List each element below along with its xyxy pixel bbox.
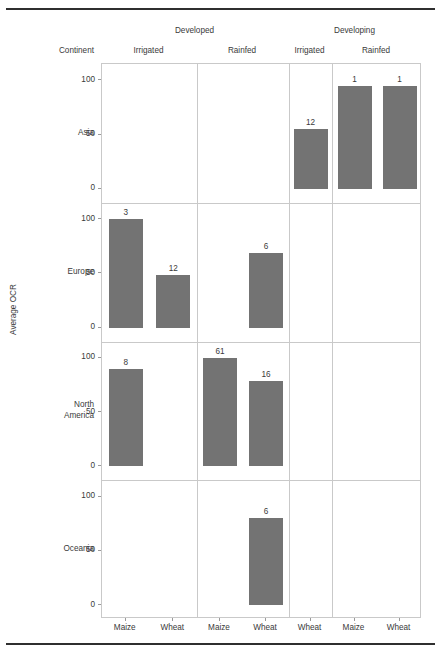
- facet-panel-r3-c3: [332, 480, 422, 619]
- bar-slot: [102, 64, 150, 203]
- x-tick-mark: [265, 618, 266, 621]
- x-tick-mark: [399, 618, 400, 621]
- bar-slot: [197, 480, 243, 619]
- bar-value-label: 8: [123, 358, 128, 368]
- continent-header: Continent: [22, 45, 94, 56]
- facet-panel-r3-c0: [102, 480, 197, 619]
- bar-value-label: 1: [352, 75, 357, 85]
- bar-value-label: 12: [306, 118, 315, 128]
- bar[interactable]: [294, 129, 328, 189]
- y-axis-title: Average OCR: [9, 270, 18, 350]
- bar-slot: [197, 64, 243, 203]
- bar-slot: [150, 480, 198, 619]
- bar-slot: [332, 342, 377, 481]
- bar-value-label: 12: [169, 264, 178, 274]
- bar-value-label: 16: [261, 370, 270, 380]
- bar[interactable]: [109, 369, 143, 467]
- x-tick-mark: [125, 618, 126, 621]
- facet-panel-r0-c0: [102, 64, 197, 203]
- bar-slot: [377, 342, 422, 481]
- bar-slot: 6: [243, 203, 289, 342]
- bar-slot: [289, 480, 332, 619]
- bar[interactable]: [338, 86, 372, 189]
- facet-panel-r2-c0: 8: [102, 342, 197, 481]
- facet-panel-r1-c3: [332, 203, 422, 342]
- bar-value-label: 6: [264, 242, 269, 252]
- x-tick-mark: [172, 618, 173, 621]
- bar-slot: [102, 480, 150, 619]
- x-tick-mark: [310, 618, 311, 621]
- x-tick-mark: [219, 618, 220, 621]
- facet-panel-r3-c1: 6: [197, 480, 289, 619]
- bar-value-label: 6: [264, 507, 269, 517]
- bottom-rule: [6, 643, 435, 645]
- bar-slot: [197, 203, 243, 342]
- bar-slot: [243, 64, 289, 203]
- bar-slot: [377, 480, 422, 619]
- bar-value-label: 61: [215, 347, 224, 357]
- column-sub-label-developed-irrigated: Irrigated: [101, 45, 196, 56]
- facet-panel-r1-c1: 6: [197, 203, 289, 342]
- top-rule: [6, 8, 435, 10]
- bar-slot: [150, 342, 198, 481]
- bar-slot: [150, 64, 198, 203]
- column-sub-label-developed-rainfed: Rainfed: [196, 45, 288, 56]
- facet-panel-r2-c3: [332, 342, 422, 481]
- bar[interactable]: [156, 275, 190, 327]
- bar-slot: 8: [102, 342, 150, 481]
- facet-panel-r3-c2: [289, 480, 332, 619]
- y-tick-label: 100: [61, 214, 95, 223]
- y-tick-label: 0: [61, 322, 95, 331]
- bar[interactable]: [249, 518, 283, 605]
- bar[interactable]: [109, 219, 143, 327]
- bar-slot: 12: [150, 203, 198, 342]
- x-tick-label: Wheat: [369, 623, 429, 632]
- y-tick-label: 100: [61, 491, 95, 500]
- bar-slot: 1: [377, 64, 422, 203]
- column-sub-label-developing-irrigated: Irrigated: [288, 45, 331, 56]
- bar[interactable]: [249, 381, 283, 467]
- bar-value-label: 1: [397, 75, 402, 85]
- chart-page: Continent DevelopedDeveloping IrrigatedR…: [0, 0, 441, 657]
- row-band-oceania: 6: [102, 480, 422, 619]
- bar-slot: 61: [197, 342, 243, 481]
- bar-slot: [289, 342, 332, 481]
- facet-panel-r1-c2: [289, 203, 332, 342]
- y-tick-label: 50: [61, 129, 95, 138]
- bar-slot: 12: [289, 64, 332, 203]
- column-group-label-developing: Developing: [288, 25, 421, 36]
- y-tick-label: 100: [61, 352, 95, 361]
- row-band-north-america: 86116: [102, 342, 422, 481]
- bar-slot: [332, 480, 377, 619]
- column-sub-label-developing-rainfed: Rainfed: [331, 45, 421, 56]
- row-band-europe: 3126: [102, 203, 422, 342]
- bar-slot: [332, 203, 377, 342]
- bar[interactable]: [203, 358, 237, 466]
- facet-panel-r2-c2: [289, 342, 332, 481]
- facet-panel-r0-c1: [197, 64, 289, 203]
- y-tick-label: 0: [61, 183, 95, 192]
- facet-panel-r0-c2: 12: [289, 64, 332, 203]
- column-group-label-developed: Developed: [101, 25, 288, 36]
- y-tick-label: 100: [61, 75, 95, 84]
- facet-panel-r2-c1: 6116: [197, 342, 289, 481]
- bar[interactable]: [383, 86, 417, 189]
- row-band-asia: 1211: [102, 64, 422, 203]
- x-tick-mark: [354, 618, 355, 621]
- y-tick-label: 50: [61, 268, 95, 277]
- bar-slot: 6: [243, 480, 289, 619]
- bar-value-label: 3: [123, 208, 128, 218]
- bar-slot: 3: [102, 203, 150, 342]
- bar-slot: [289, 203, 332, 342]
- bar[interactable]: [249, 253, 283, 328]
- y-tick-label: 50: [61, 407, 95, 416]
- y-tick-label: 50: [61, 545, 95, 554]
- bar-slot: [377, 203, 422, 342]
- plot-frame: 12113126861166: [101, 63, 421, 618]
- bar-slot: 1: [332, 64, 377, 203]
- y-tick-label: 0: [61, 461, 95, 470]
- bar-slot: 16: [243, 342, 289, 481]
- facet-panel-r0-c3: 11: [332, 64, 422, 203]
- facet-panel-r1-c0: 312: [102, 203, 197, 342]
- y-tick-label: 0: [61, 600, 95, 609]
